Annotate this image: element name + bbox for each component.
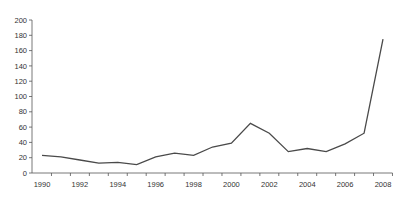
y-tick-label: 180 bbox=[14, 31, 27, 40]
y-tick-label: 200 bbox=[14, 16, 27, 25]
y-tick-label: 120 bbox=[14, 77, 27, 86]
y-tick-label: 0 bbox=[23, 169, 27, 178]
x-axis: 1990199219941996199820002002200420062008 bbox=[32, 173, 392, 189]
x-tick-label: 1994 bbox=[109, 180, 126, 189]
x-tick-label: 2006 bbox=[337, 180, 354, 189]
x-tick-label: 2000 bbox=[223, 180, 240, 189]
y-tick-label: 60 bbox=[19, 123, 27, 132]
line-chart: 020406080100120140160180200 199019921994… bbox=[0, 0, 408, 200]
y-tick-label: 100 bbox=[14, 92, 27, 101]
x-tick-label: 2004 bbox=[299, 180, 316, 189]
x-tick-label: 1992 bbox=[72, 180, 89, 189]
y-axis: 020406080100120140160180200 bbox=[14, 16, 32, 178]
x-tick-label: 1998 bbox=[185, 180, 202, 189]
y-tick-label: 80 bbox=[19, 107, 27, 116]
y-tick-label: 40 bbox=[19, 138, 27, 147]
y-tick-label: 140 bbox=[14, 62, 27, 71]
x-tick-label: 2008 bbox=[375, 180, 392, 189]
x-tick-label: 2002 bbox=[261, 180, 278, 189]
y-tick-label: 160 bbox=[14, 46, 27, 55]
x-tick-label: 1996 bbox=[147, 180, 164, 189]
x-tick-label: 1990 bbox=[34, 180, 51, 189]
y-tick-label: 20 bbox=[19, 153, 27, 162]
data-line bbox=[42, 39, 383, 165]
